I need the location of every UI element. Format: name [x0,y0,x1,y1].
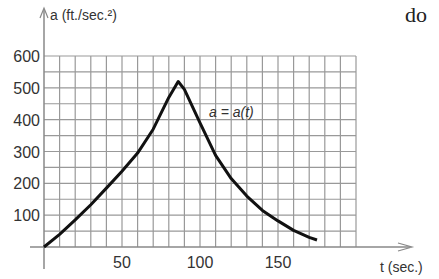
svg-text:400: 400 [13,112,40,129]
svg-text:150: 150 [265,254,292,271]
svg-text:300: 300 [13,144,40,161]
acceleration-chart: 50100150100200300400500600 a (ft./sec.²)… [0,0,439,279]
x-axis-label: t (sec.) [380,259,423,275]
svg-text:100: 100 [187,254,214,271]
grid [44,56,356,247]
svg-text:50: 50 [113,254,131,271]
y-axis-label: a (ft./sec.²) [50,7,117,23]
acceleration-curve [44,82,317,248]
svg-text:200: 200 [13,175,40,192]
svg-text:600: 600 [13,48,40,65]
svg-text:500: 500 [13,80,40,97]
axes [30,8,412,269]
svg-text:100: 100 [13,207,40,224]
curve-label: a = a(t) [209,104,254,120]
